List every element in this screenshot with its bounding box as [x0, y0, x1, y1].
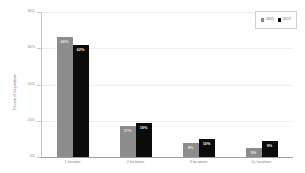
y-axis-title: Percent of respondents [14, 0, 17, 52]
bar-2017-1-location[interactable]: 62% [73, 45, 89, 157]
legend-label-2015: 2015 [266, 18, 274, 22]
bar-2015-4-locations[interactable]: 5% [246, 148, 262, 157]
y-axis-line [41, 12, 42, 157]
bar-value-label: 8% [183, 147, 199, 151]
bar-2017-4-locations[interactable]: 9% [262, 141, 278, 157]
bar-2017-3-locations[interactable]: 10% [199, 139, 215, 157]
y-tick-label-80: 80% [9, 10, 35, 14]
bar-2015-1-location[interactable]: 66% [57, 37, 73, 157]
bar-value-label: 5% [246, 152, 262, 156]
x-axis-line [41, 157, 293, 158]
bar-value-label: 62% [73, 49, 89, 53]
category-label-3: 3 locations [167, 161, 230, 165]
y-tick-label-60: 60% [9, 46, 35, 50]
y-tick-label-40: 40% [9, 83, 35, 87]
legend-item-2015[interactable]: 2015 [261, 18, 274, 22]
legend-label-2017: 2017 [283, 18, 291, 22]
bar-value-label: 66% [57, 41, 73, 45]
legend-swatch-2017 [278, 18, 281, 21]
bar-2015-2-locations[interactable]: 17% [120, 126, 136, 157]
y-tick-40 [37, 85, 41, 86]
bar-value-label: 9% [262, 145, 278, 149]
legend-swatch-2015 [261, 18, 264, 21]
bar-value-label: 19% [136, 127, 152, 131]
category-label-1: 1 location [41, 161, 104, 165]
y-tick-label-20: 20% [9, 119, 35, 123]
category-label-4: 4+ locations [230, 161, 293, 165]
bar-2017-2-locations[interactable]: 19% [136, 123, 152, 157]
bar-chart: Percent of respondents 0%20%40%60%80% 66… [0, 0, 305, 173]
y-tick-60 [37, 48, 41, 49]
y-tick-80 [37, 12, 41, 13]
category-label-2: 2 locations [104, 161, 167, 165]
bar-value-label: 17% [120, 130, 136, 134]
bar-2015-3-locations[interactable]: 8% [183, 143, 199, 158]
legend[interactable]: 2015 2017 [255, 11, 297, 29]
bar-value-label: 10% [199, 143, 215, 147]
legend-item-2017[interactable]: 2017 [278, 18, 291, 22]
y-tick-label-0: 0% [9, 155, 35, 159]
y-tick-20 [37, 121, 41, 122]
